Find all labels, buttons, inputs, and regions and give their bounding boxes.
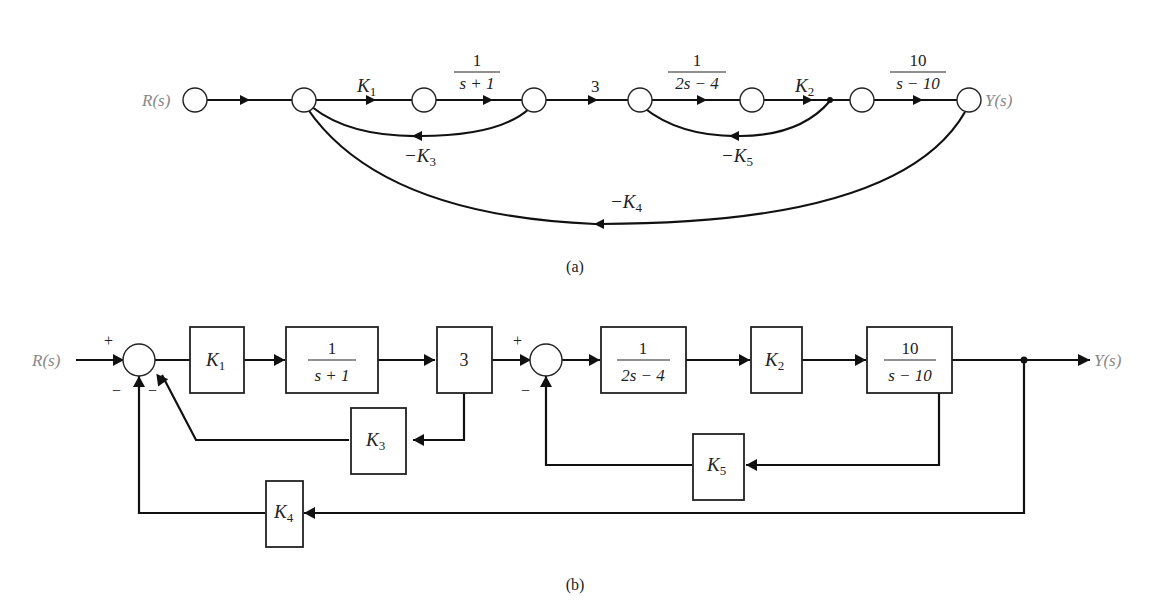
block-three-label: 3 xyxy=(460,350,469,370)
arrow-icon xyxy=(413,434,424,446)
tf-g1-denominator: s + 1 xyxy=(459,74,494,93)
sign-minus: − xyxy=(521,382,530,399)
caption-b: (b) xyxy=(566,576,585,594)
arrow-icon xyxy=(589,354,600,366)
gain-minus-k5: −K5 xyxy=(721,145,753,169)
output-label: Y(s) xyxy=(1094,351,1122,370)
wire-k3-feedback-in xyxy=(413,393,464,440)
node xyxy=(740,88,764,112)
output-label: Y(s) xyxy=(985,91,1013,110)
signal-flow-graph: R(s) Y(s) K1 1 s + 1 3 1 2s − 4 K2 10 s … xyxy=(141,51,1013,276)
sign-minus: − xyxy=(148,382,157,399)
node xyxy=(292,88,316,112)
node xyxy=(850,88,874,112)
block-diagram-figure: R(s) Y(s) K1 1 s + 1 3 1 2s − 4 K2 10 s … xyxy=(0,0,1150,615)
gain-k1: K1 xyxy=(356,75,376,99)
arrow-icon xyxy=(729,131,739,141)
feedback-arc-k5 xyxy=(643,101,830,136)
gain-k2: K2 xyxy=(794,75,814,99)
gain-three: 3 xyxy=(591,77,600,96)
wire-k4-feedback-out xyxy=(139,376,265,513)
arrow-icon xyxy=(274,354,285,366)
block-g2-denominator: 2s − 4 xyxy=(621,366,665,385)
arrow-icon xyxy=(588,95,598,105)
summing-junction-2 xyxy=(530,344,562,376)
arrow-icon xyxy=(1078,354,1090,366)
block-g3-denominator: s − 10 xyxy=(888,366,932,385)
arrow-icon xyxy=(739,354,750,366)
arrow-icon xyxy=(424,354,435,366)
node xyxy=(412,88,436,112)
arrow-icon xyxy=(133,376,145,387)
block-diagram: + − − + − K1 1 s + 1 3 1 2s − 4 K2 10 s … xyxy=(31,327,1122,594)
arrow-icon xyxy=(304,507,315,519)
arrow-icon xyxy=(594,219,604,229)
input-label: R(s) xyxy=(141,91,171,110)
arrow-icon xyxy=(855,354,866,366)
tf-g3-numerator: 10 xyxy=(910,51,927,70)
arrow-icon xyxy=(697,95,707,105)
node xyxy=(628,88,652,112)
tf-g2-denominator: 2s − 4 xyxy=(675,74,719,93)
sign-minus: − xyxy=(112,382,121,399)
block-g1-denominator: s + 1 xyxy=(314,366,349,385)
sign-plus: + xyxy=(104,332,113,349)
node xyxy=(522,88,546,112)
block-g3-numerator: 10 xyxy=(902,339,919,358)
input-label: R(s) xyxy=(31,351,61,370)
node-output xyxy=(957,88,981,112)
arrow-icon xyxy=(483,95,493,105)
caption-a: (a) xyxy=(566,258,584,276)
block-g1-numerator: 1 xyxy=(328,339,337,358)
tf-g1-numerator: 1 xyxy=(473,51,482,70)
arrow-icon xyxy=(746,459,757,471)
gain-minus-k4: −K4 xyxy=(610,191,643,215)
sign-plus: + xyxy=(513,332,522,349)
takeoff-dot xyxy=(1021,357,1028,364)
arrow-icon xyxy=(240,95,250,105)
junction-dot xyxy=(827,97,833,103)
wire-k5-feedback-in xyxy=(746,393,939,465)
tf-g2-numerator: 1 xyxy=(693,51,702,70)
node-input xyxy=(183,88,207,112)
arrow-icon xyxy=(913,95,923,105)
block-g2-numerator: 1 xyxy=(639,339,648,358)
summing-junction-1 xyxy=(123,344,155,376)
arrow-icon xyxy=(540,376,552,387)
arrow-icon xyxy=(412,131,422,141)
tf-g3-denominator: s − 10 xyxy=(896,74,940,93)
gain-minus-k3: −K3 xyxy=(404,145,436,169)
